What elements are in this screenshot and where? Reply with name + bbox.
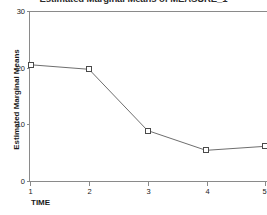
x-axis-ticks	[31, 182, 266, 186]
data-point-marker	[204, 148, 209, 153]
plot-area: 0 10 20 30 1 2 3 4 5	[0, 0, 267, 215]
x-tick-label-3: 3	[146, 187, 150, 196]
x-tick-label-5: 5	[262, 187, 266, 196]
series-line-measure-1	[31, 65, 265, 151]
x-tick-label-4: 4	[205, 187, 209, 196]
data-point-marker	[28, 62, 33, 67]
x-tick-label-2: 2	[87, 187, 91, 196]
data-point-marker	[87, 67, 92, 72]
x-tick-label-1: 1	[28, 187, 32, 196]
data-point-marker	[145, 128, 150, 133]
series-markers	[28, 62, 267, 153]
data-point-marker	[262, 144, 267, 149]
x-axis-title: TIME	[31, 198, 50, 207]
y-axis-title: Estimated Marginal Means	[12, 40, 21, 160]
y-tick-label-30: 30	[17, 7, 25, 16]
chart-container: Estimated Marginal Means of MEASURE_1 0 …	[0, 0, 267, 215]
y-tick-label-0: 0	[21, 177, 25, 186]
